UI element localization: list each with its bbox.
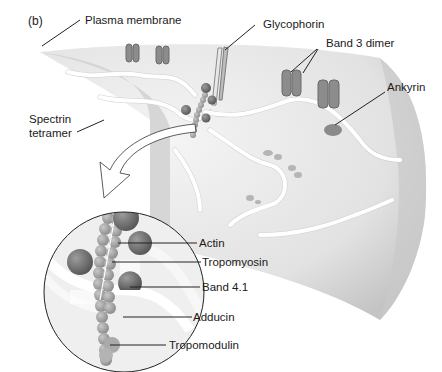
label-glycophorin: Glycophorin (263, 18, 324, 31)
label-ankyrin: Ankyrin (387, 81, 425, 94)
label-adducin: Adducin (193, 311, 235, 324)
label-plasma-membrane: Plasma membrane (85, 14, 182, 27)
label-actin: Actin (199, 237, 225, 250)
panel-label: (b) (28, 15, 43, 28)
label-spectrin-line2: tetramer (29, 127, 72, 140)
ankyrin (324, 124, 342, 136)
label-spectrin-line1: Spectrin (29, 113, 71, 126)
label-band3-dimer: Band 3 dimer (326, 37, 394, 50)
label-band41: Band 4.1 (202, 281, 248, 294)
label-tropomyosin: Tropomyosin (202, 256, 268, 269)
label-tropomodulin: Tropomodulin (169, 339, 239, 352)
